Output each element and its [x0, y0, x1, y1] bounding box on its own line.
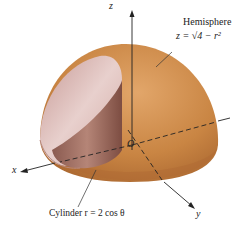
cylinder-label: Cylinder r = 2 cos θ	[49, 208, 125, 218]
origin-label: O	[127, 138, 134, 149]
hemisphere-label: Hemisphere	[183, 16, 231, 27]
x-axis-label: x	[12, 164, 16, 175]
back-axis	[218, 118, 230, 121]
x-axis	[24, 163, 55, 171]
y-axis	[164, 182, 192, 206]
hemisphere-equation: z = √4 − r²	[176, 30, 221, 41]
z-axis-label: z	[109, 0, 113, 11]
z-axis-arrow-icon	[130, 10, 135, 17]
y-axis-label: y	[196, 208, 200, 219]
x-axis-arrow-icon	[20, 168, 28, 173]
